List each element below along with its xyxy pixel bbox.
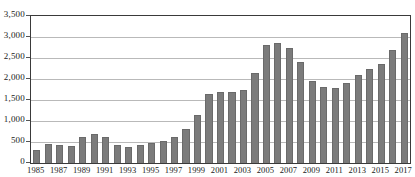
y-axis: 05001,0001,5002,0002,5003,0003,500 bbox=[0, 0, 30, 177]
x-tick-label: 1993 bbox=[119, 165, 136, 175]
bars-layer bbox=[31, 16, 410, 163]
bar bbox=[355, 75, 362, 163]
bar bbox=[332, 88, 339, 163]
bar bbox=[297, 62, 304, 163]
x-tick-label: 2003 bbox=[234, 165, 251, 175]
x-tick-label: 1995 bbox=[142, 165, 159, 175]
bar bbox=[68, 146, 75, 163]
bar bbox=[217, 92, 224, 163]
y-tick-label: 1,500 bbox=[4, 94, 25, 103]
bar bbox=[389, 50, 396, 163]
x-tick-label: 2017 bbox=[395, 165, 412, 175]
y-tick-label: 3,000 bbox=[4, 31, 25, 40]
bar bbox=[263, 45, 270, 163]
y-tick-label: 2,500 bbox=[4, 52, 25, 61]
bar bbox=[320, 87, 327, 163]
bar bbox=[125, 147, 132, 163]
y-tick-label: 3,500 bbox=[4, 10, 25, 19]
y-tick-label: 2,000 bbox=[4, 73, 25, 82]
x-tick-label: 2009 bbox=[303, 165, 320, 175]
x-tick-label: 1999 bbox=[188, 165, 205, 175]
bar bbox=[33, 150, 40, 163]
bar bbox=[56, 145, 63, 163]
bar bbox=[102, 137, 109, 163]
y-tick-label: 0 bbox=[20, 157, 25, 166]
bar bbox=[205, 94, 212, 163]
x-tick-label: 2005 bbox=[257, 165, 274, 175]
x-tick-label: 2007 bbox=[280, 165, 297, 175]
x-tick-label: 2013 bbox=[349, 165, 366, 175]
x-tick-label: 2001 bbox=[211, 165, 228, 175]
bar bbox=[309, 81, 316, 163]
bar bbox=[114, 145, 121, 163]
bar bbox=[137, 145, 144, 163]
y-tick-label: 1,000 bbox=[4, 115, 25, 124]
plot-area bbox=[30, 15, 411, 164]
x-tick-label: 1989 bbox=[73, 165, 90, 175]
bar bbox=[171, 137, 178, 163]
bar bbox=[378, 64, 385, 163]
bar bbox=[286, 48, 293, 164]
bar bbox=[228, 92, 235, 163]
x-tick-label: 2011 bbox=[326, 165, 343, 175]
x-axis: 1985198719891991199319951997199920012003… bbox=[30, 165, 411, 177]
bar bbox=[401, 33, 408, 163]
bar bbox=[274, 43, 281, 163]
bar bbox=[240, 90, 247, 164]
bar-chart: 05001,0001,5002,0002,5003,0003,500 19851… bbox=[0, 0, 415, 177]
bar bbox=[194, 115, 201, 163]
x-tick-label: 2015 bbox=[372, 165, 389, 175]
x-tick-label: 1985 bbox=[27, 165, 44, 175]
x-tick-label: 1997 bbox=[165, 165, 182, 175]
bar bbox=[148, 143, 155, 163]
x-tick-label: 1991 bbox=[96, 165, 113, 175]
bar bbox=[91, 134, 98, 163]
bar bbox=[79, 137, 86, 163]
bar bbox=[45, 144, 52, 163]
bar bbox=[182, 129, 189, 163]
x-tick-label: 1987 bbox=[50, 165, 67, 175]
bar bbox=[251, 73, 258, 163]
bar bbox=[366, 69, 373, 164]
bar bbox=[160, 141, 167, 163]
bar bbox=[343, 83, 350, 163]
y-tick-label: 500 bbox=[11, 136, 25, 145]
